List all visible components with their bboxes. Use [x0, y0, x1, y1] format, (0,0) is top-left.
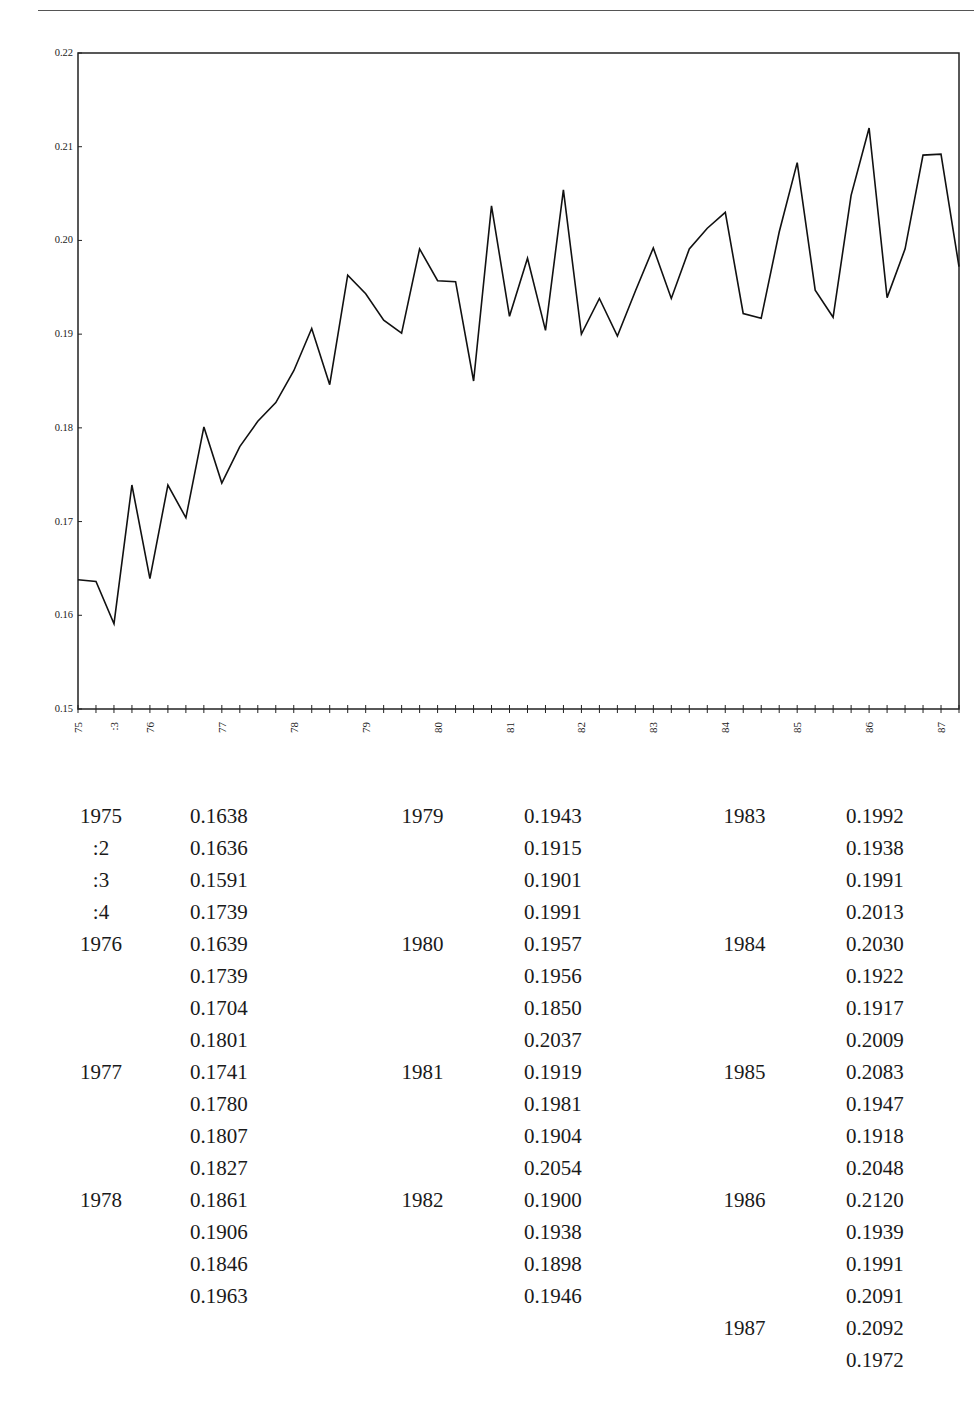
period-label: 1979	[395, 800, 450, 832]
value-cell: 0.1739	[190, 960, 248, 992]
y-tick-label: 0.19	[55, 328, 73, 339]
value-cell: 0.1938	[524, 1216, 582, 1248]
value-cell: 0.1846	[190, 1248, 248, 1280]
period-label: 1986	[716, 1184, 773, 1216]
value-cell: 0.1780	[190, 1088, 248, 1120]
x-tick-label: 78	[288, 722, 300, 734]
x-tick-label: 75	[72, 722, 84, 734]
period-label: 1976	[70, 928, 132, 960]
x-tick-label: 77	[216, 722, 228, 734]
value-cell: 0.2013	[846, 896, 904, 928]
value-cell: 0.2048	[846, 1152, 904, 1184]
value-cell: 0.1704	[190, 992, 248, 1024]
value-cell: 0.1827	[190, 1152, 248, 1184]
value-cell: 0.2091	[846, 1280, 904, 1312]
value-cell: 0.1741	[190, 1056, 248, 1088]
x-tick-label: 81	[504, 722, 516, 733]
value-cell: 0.1991	[524, 896, 582, 928]
value-cell: 0.1801	[190, 1024, 248, 1056]
y-tick-label: 0.22	[55, 47, 73, 58]
x-tick-label: 86	[863, 722, 875, 734]
value-cell: 0.1739	[190, 896, 248, 928]
value-cell: 0.2083	[846, 1056, 904, 1088]
data-line	[78, 128, 959, 624]
x-tick-label: 80	[432, 722, 444, 734]
value-cell: 0.2054	[524, 1152, 582, 1184]
x-tick-label: 84	[719, 722, 731, 734]
value-cell: 0.2037	[524, 1024, 582, 1056]
value-cell: 0.1963	[190, 1280, 248, 1312]
value-cell: 0.1917	[846, 992, 904, 1024]
value-cell: 0.1991	[846, 864, 904, 896]
value-cell: 0.1915	[524, 832, 582, 864]
value-cell: 0.1957	[524, 928, 582, 960]
value-cell: 0.1898	[524, 1248, 582, 1280]
x-tick-label: 87	[935, 722, 947, 734]
value-cell: 0.1992	[846, 800, 904, 832]
period-label: 1983	[716, 800, 773, 832]
period-label: :2	[70, 832, 132, 864]
period-label: 1980	[395, 928, 450, 960]
value-cell: 0.1850	[524, 992, 582, 1024]
y-tick-label: 0.20	[55, 234, 73, 245]
value-cell: 0.1939	[846, 1216, 904, 1248]
period-label: 1978	[70, 1184, 132, 1216]
period-label: 1984	[716, 928, 773, 960]
value-cell: 0.1972	[846, 1344, 904, 1376]
plot-frame	[78, 53, 959, 709]
value-cell: 0.1981	[524, 1088, 582, 1120]
period-label: 1981	[395, 1056, 450, 1088]
value-cell: 0.2092	[846, 1312, 904, 1344]
value-cell: 0.1638	[190, 800, 248, 832]
value-cell: 0.1591	[190, 864, 248, 896]
line-chart: 0.150.160.170.180.190.200.210.2275:37677…	[0, 0, 974, 760]
period-label: :3	[70, 864, 132, 896]
value-cell: 0.1918	[846, 1120, 904, 1152]
value-cell: 0.2120	[846, 1184, 904, 1216]
y-tick-label: 0.17	[55, 516, 73, 527]
period-label: 1985	[716, 1056, 773, 1088]
value-cell: 0.1639	[190, 928, 248, 960]
value-cell: 0.1636	[190, 832, 248, 864]
value-cell: 0.1938	[846, 832, 904, 864]
x-tick-label: 83	[647, 722, 659, 734]
value-cell: 0.1900	[524, 1184, 582, 1216]
y-tick-label: 0.16	[55, 609, 73, 620]
y-tick-label: 0.21	[55, 141, 73, 152]
value-cell: 0.1946	[524, 1280, 582, 1312]
value-cell: 0.1943	[524, 800, 582, 832]
x-tick-label: 76	[144, 722, 156, 734]
value-cell: 0.1947	[846, 1088, 904, 1120]
value-cell: 0.1861	[190, 1184, 248, 1216]
x-tick-label: :3	[108, 722, 120, 731]
period-label: 1982	[395, 1184, 450, 1216]
value-cell: 0.1956	[524, 960, 582, 992]
period-label: 1987	[716, 1312, 773, 1344]
value-cell: 0.1919	[524, 1056, 582, 1088]
value-cell: 0.1807	[190, 1120, 248, 1152]
value-cell: 0.1922	[846, 960, 904, 992]
y-tick-label: 0.18	[55, 422, 73, 433]
period-label: :4	[70, 896, 132, 928]
period-label: 1975	[70, 800, 132, 832]
period-label: 1977	[70, 1056, 132, 1088]
value-cell: 0.1901	[524, 864, 582, 896]
value-cell: 0.2030	[846, 928, 904, 960]
x-tick-label: 85	[791, 722, 803, 734]
value-cell: 0.2009	[846, 1024, 904, 1056]
y-tick-label: 0.15	[55, 703, 73, 714]
value-cell: 0.1904	[524, 1120, 582, 1152]
value-cell: 0.1906	[190, 1216, 248, 1248]
x-tick-label: 79	[360, 722, 372, 734]
value-cell: 0.1991	[846, 1248, 904, 1280]
x-tick-label: 82	[575, 722, 587, 733]
